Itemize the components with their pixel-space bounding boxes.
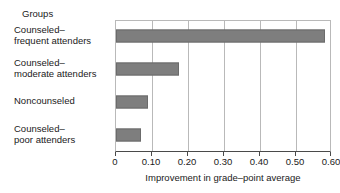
x-axis-tick-label: 0.60 — [322, 156, 340, 167]
x-axis-tick-label: 0 — [112, 156, 117, 167]
bar — [116, 128, 141, 141]
category-label-line1: Counseled– — [14, 56, 65, 67]
category-label-line2: poor attenders — [14, 134, 113, 146]
x-axis-tick-label: 0.30 — [214, 156, 233, 167]
x-axis-tick-label: 0.10 — [142, 156, 161, 167]
groups-axis-title: Groups — [22, 8, 53, 19]
category-label-line2: moderate attenders — [14, 68, 113, 80]
category-label-line1: Counseled– — [14, 23, 65, 34]
plot-area — [115, 20, 331, 152]
bars-group — [116, 21, 330, 151]
bar — [116, 29, 325, 42]
x-axis-tick-labels: 00.100.200.300.400.500.60 — [115, 156, 331, 169]
category-label-line2: frequent attenders — [14, 35, 113, 47]
x-axis-title: Improvement in grade–point average — [115, 172, 331, 183]
category-label-line1: Noncounseled — [14, 95, 75, 106]
category-label-line1: Counseled– — [14, 122, 65, 133]
category-label: Counseled–poor attenders — [14, 122, 113, 145]
category-label: Noncounseled — [14, 95, 113, 107]
category-label-list: Counseled–frequent attendersCounseled–mo… — [0, 20, 113, 152]
category-label: Counseled–frequent attenders — [14, 23, 113, 46]
x-axis-tick-label: 0.50 — [286, 156, 305, 167]
category-label: Counseled–moderate attenders — [14, 56, 113, 79]
bar — [116, 62, 179, 75]
x-axis-tick-label: 0.40 — [250, 156, 269, 167]
x-axis-tick-label: 0.20 — [178, 156, 197, 167]
bar — [116, 95, 148, 108]
